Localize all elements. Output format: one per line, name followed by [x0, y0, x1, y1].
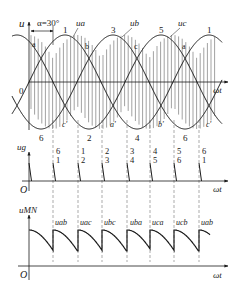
- segment-label-uca: uca: [152, 218, 164, 227]
- waveform-svg: u 0 ωt α=30° ua ub uc 1 3 5 1 a b c a: [0, 0, 243, 297]
- gate-pulses: 61122334455661: [29, 146, 206, 181]
- segment-label-uba: uba: [130, 218, 142, 227]
- segment-label-uab: uab: [55, 218, 67, 227]
- peak-number-1b: 1: [207, 25, 212, 35]
- intersection-a2: a: [182, 42, 186, 51]
- bottom-x-label: ωt: [213, 270, 222, 280]
- top-origin-label: 0: [19, 86, 24, 96]
- gate-pulse: [174, 163, 177, 181]
- segment-label-ubc: ubc: [104, 218, 116, 227]
- output-voltage-waveform: [29, 230, 210, 251]
- peak-number-1: 1: [63, 25, 68, 35]
- phase-label-ub: ub: [130, 18, 140, 28]
- gate-pulse: [78, 163, 81, 181]
- gate-pulse: [150, 163, 153, 181]
- pulse-thyristor-number: 1: [56, 155, 60, 165]
- bottom-panel: uMN O ωt uab uac ubc uba uca ucb uab: [18, 205, 228, 280]
- middle-panel: ug O ωt 61122334455661: [17, 142, 228, 195]
- intersection-c-prime: c': [62, 120, 68, 129]
- gate-pulse: [102, 163, 105, 181]
- trough-number-6b: 6: [183, 133, 188, 143]
- bottom-origin-label: O: [20, 269, 27, 280]
- intersection-a: a: [32, 40, 36, 49]
- intersection-a-prime: a': [110, 120, 116, 129]
- bottom-y-label: uMN: [19, 205, 38, 215]
- intersection-b: b: [85, 42, 89, 51]
- phase-label-ua: ua: [76, 18, 86, 28]
- segment-label-ucb: ucb: [176, 218, 188, 227]
- pulse-thyristor-number: 4: [130, 155, 135, 165]
- commutation-dashed-lines: [53, 120, 199, 262]
- intersection-c: c: [134, 42, 138, 51]
- pulse-thyristor-number: 1: [202, 155, 206, 165]
- peak-number-3: 3: [111, 25, 116, 35]
- middle-y-label: ug: [17, 142, 27, 152]
- pulse-thyristor-number: 6: [177, 155, 181, 165]
- gate-pulse: [127, 163, 130, 181]
- leader-ua: [73, 28, 78, 37]
- intersection-b-prime: b': [158, 120, 164, 129]
- alpha-label: α=30°: [37, 18, 60, 28]
- gate-pulse: [53, 163, 56, 181]
- segment-label-uac: uac: [80, 218, 92, 227]
- pulse-thyristor-number: 2: [81, 155, 85, 165]
- top-y-label: u: [19, 17, 25, 29]
- pulse-thyristor-number: 5: [153, 155, 157, 165]
- leader-ub: [122, 28, 132, 37]
- peak-number-5: 5: [159, 25, 164, 35]
- top-panel: u 0 ωt α=30° ua ub uc 1 3 5 1 a b c a: [12, 17, 228, 143]
- trough-number-6: 6: [39, 133, 44, 143]
- gate-pulse: [199, 163, 202, 181]
- pulse-thyristor-number: 3: [105, 155, 109, 165]
- middle-x-label: ωt: [213, 184, 222, 194]
- rectifier-waveform-figure: u 0 ωt α=30° ua ub uc 1 3 5 1 a b c a: [0, 0, 243, 297]
- trough-number-2: 2: [87, 133, 92, 143]
- segment-label-uab-2: uab: [201, 218, 213, 227]
- trough-number-4: 4: [135, 133, 140, 143]
- middle-origin-label: O: [20, 184, 27, 195]
- segment-labels: uab uac ubc uba uca ucb uab: [55, 218, 213, 227]
- top-x-label: ωt: [213, 85, 222, 95]
- intersection-c-prime-2: c': [206, 120, 212, 129]
- phase-label-uc: uc: [178, 18, 187, 28]
